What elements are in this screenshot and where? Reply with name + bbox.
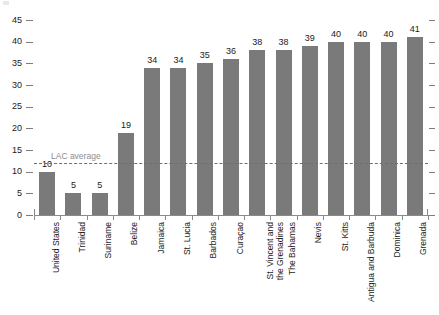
bar [407, 37, 423, 215]
y-tick-mark-right [429, 150, 435, 151]
y-tick-label: 40 [0, 37, 22, 46]
y-tick-mark-right [429, 215, 435, 216]
bar [249, 50, 265, 215]
bar-value-label: 5 [86, 181, 114, 190]
y-tick-mark [26, 85, 33, 86]
x-axis-category-label: Jamaica [157, 222, 167, 314]
bar-value-label: 40 [322, 30, 350, 39]
x-axis-category-label: The Bahamas [288, 222, 298, 314]
bar-value-label: 38 [243, 38, 271, 47]
bar-value-label: 36 [217, 47, 245, 56]
y-tick-label: 10 [0, 167, 22, 176]
bar-value-label: 40 [348, 30, 376, 39]
reference-line-lac-average [34, 163, 428, 164]
y-tick-label: 20 [0, 124, 22, 133]
bar-value-label: 35 [191, 51, 219, 60]
x-axis-line [34, 215, 428, 216]
bar [328, 42, 344, 215]
x-axis-category-label: Grenada [419, 222, 429, 314]
x-axis-category-label: Antigua and Barbuda [367, 222, 377, 314]
x-axis-category-label: Suriname [104, 222, 114, 314]
x-axis-category-label: Dominica [393, 222, 403, 314]
y-tick-mark-right [429, 85, 435, 86]
x-tick-mark [428, 215, 429, 220]
bar-chart: 051015202530354045 105519343435363838394… [0, 0, 439, 315]
bar-value-label: 40 [375, 30, 403, 39]
y-tick-label: 35 [0, 59, 22, 68]
y-tick-label: 15 [0, 146, 22, 155]
bar-value-label: 38 [270, 38, 298, 47]
y-tick-mark [26, 172, 33, 173]
corner-artifact [3, 1, 9, 5]
x-axis-category-label: Barbados [209, 222, 219, 314]
y-tick-mark [26, 42, 33, 43]
x-axis-category-label: Nevis [314, 222, 324, 314]
bar [92, 193, 108, 215]
y-tick-label: 5 [0, 189, 22, 198]
y-tick-mark [26, 107, 33, 108]
bar [276, 50, 292, 215]
bar [170, 68, 186, 215]
bar-value-label: 34 [138, 56, 166, 65]
y-tick-mark-right [429, 172, 435, 173]
x-axis-category-label: Trinidad [78, 222, 88, 314]
bar [223, 59, 239, 215]
bar-value-label: 41 [401, 25, 429, 34]
y-tick-label: 0 [0, 211, 22, 220]
x-axis-category-label: St. Vincent and the Grenadines [266, 222, 285, 314]
bar-value-label: 39 [296, 34, 324, 43]
x-axis-category-label: Belize [130, 222, 140, 314]
y-tick-mark-right [429, 193, 435, 194]
y-tick-mark [26, 63, 33, 64]
bar [65, 193, 81, 215]
x-axis-category-label: St. Kitts [341, 222, 351, 314]
bar [118, 133, 134, 215]
reference-line-label: LAC average [51, 152, 101, 161]
bar-value-label: 19 [112, 121, 140, 130]
bar-value-label: 10 [33, 160, 61, 169]
y-tick-mark [26, 215, 33, 216]
bar [354, 42, 370, 215]
bar [144, 68, 160, 215]
x-axis-category-label: Curaçao [236, 222, 246, 314]
y-tick-mark [26, 20, 33, 21]
y-tick-mark-right [429, 42, 435, 43]
x-axis-category-label: St. Lucia [183, 222, 193, 314]
y-tick-mark-right [429, 63, 435, 64]
y-tick-mark-right [429, 107, 435, 108]
bar-value-label: 5 [59, 181, 87, 190]
bar-value-label: 34 [164, 56, 192, 65]
y-tick-label: 45 [0, 16, 22, 25]
y-tick-mark [26, 128, 33, 129]
y-tick-label: 25 [0, 102, 22, 111]
y-tick-mark [26, 150, 33, 151]
y-tick-mark [26, 193, 33, 194]
bar [39, 172, 55, 215]
bar [381, 42, 397, 215]
bar [302, 46, 318, 215]
x-axis-category-label: United States [52, 222, 62, 314]
bar [197, 63, 213, 215]
y-tick-mark-right [429, 20, 435, 21]
y-tick-label: 30 [0, 81, 22, 90]
y-tick-mark-right [429, 128, 435, 129]
